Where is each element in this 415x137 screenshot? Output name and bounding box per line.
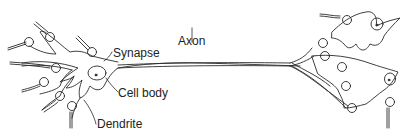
left-cell-body — [22, 31, 300, 118]
neuron-diagram: Synapse Axon Cell body Dendrite — [0, 0, 415, 137]
leader-lines — [84, 28, 192, 124]
right-cells — [312, 12, 400, 108]
neuron-illustration — [0, 0, 415, 137]
label-synapse: Synapse — [113, 47, 160, 59]
label-cell-body: Cell body — [118, 87, 168, 99]
right-synapses — [319, 14, 395, 128]
label-dendrite: Dendrite — [97, 118, 142, 130]
label-axon: Axon — [178, 35, 205, 47]
